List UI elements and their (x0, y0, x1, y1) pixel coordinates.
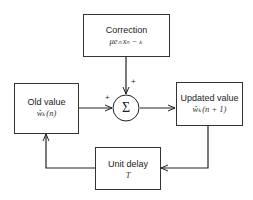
summer-sigma: Σ (113, 101, 139, 115)
summer-sign-left: + (105, 94, 110, 102)
correction-expr: μeₙ xₙ − ₖ (84, 36, 169, 47)
unit-delay-label: Unit delay (96, 159, 160, 170)
old-value-block: Old value ŵₖ(n) (14, 83, 79, 134)
updated-value-label: Updated value (177, 93, 242, 104)
correction-label: Correction (84, 25, 169, 36)
correction-block: Correction μeₙ xₙ − ₖ (83, 14, 170, 57)
unit-delay-block: Unit delay T (95, 147, 161, 190)
summer-sign-top: + (131, 78, 136, 86)
old-value-expr: ŵₖ(n) (15, 108, 78, 119)
unit-delay-expr: T (96, 170, 160, 181)
updated-value-block: Updated value ŵₖ(n + 1) (176, 82, 243, 126)
old-value-label: Old value (15, 97, 78, 108)
updated-value-expr: ŵₖ(n + 1) (177, 104, 242, 115)
